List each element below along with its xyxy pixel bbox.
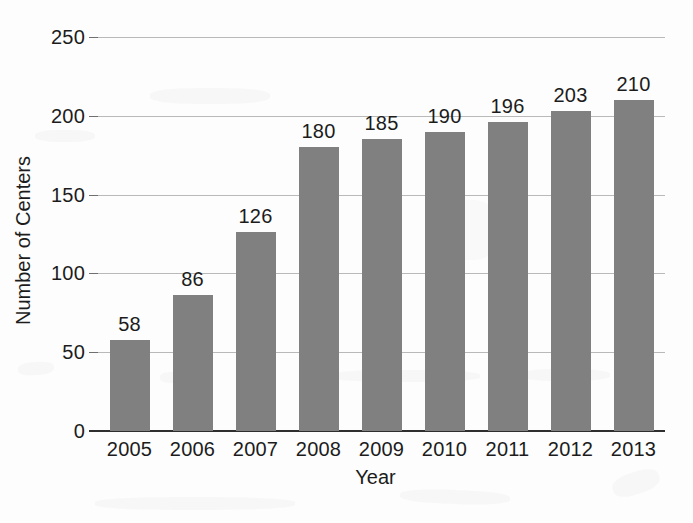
bar-value-label: 58 (118, 313, 141, 336)
bar-value-label: 210 (617, 73, 651, 96)
x-axis-tick-label: 2005 (107, 438, 152, 461)
y-axis-tick (89, 430, 98, 432)
bar[interactable] (110, 340, 150, 431)
x-axis-tick-label: 2006 (170, 438, 215, 461)
bar-value-label: 203 (554, 84, 588, 107)
bar-value-label: 180 (302, 120, 336, 143)
x-axis-tick-label: 2013 (611, 438, 656, 461)
bar-value-label: 126 (239, 205, 273, 228)
bar-series: 5820058620061262007180200818520091902010… (98, 37, 665, 431)
y-axis-tick-label: 0 (74, 420, 85, 443)
bar[interactable] (173, 295, 213, 431)
x-axis-tick-label: 2008 (296, 438, 341, 461)
bar[interactable] (425, 132, 465, 431)
y-axis-tick-label: 50 (62, 341, 85, 364)
y-axis-tick-label: 200 (51, 104, 85, 127)
bar-value-label: 86 (181, 268, 204, 291)
bar[interactable] (614, 100, 654, 431)
chart-screenshot: Number of Centers 050100150200250 582005… (0, 0, 693, 523)
x-axis-tick-label: 2012 (548, 438, 593, 461)
bar[interactable] (236, 232, 276, 431)
y-axis-title-text: Number of Centers (12, 156, 35, 325)
x-axis-tick-label: 2010 (422, 438, 467, 461)
y-axis-tick (89, 352, 98, 353)
y-axis-tick (89, 273, 98, 274)
y-axis-tick-label: 150 (51, 183, 85, 206)
bar-group: 862006 (161, 37, 224, 431)
x-axis-tick-label: 2009 (359, 438, 404, 461)
x-axis-tick-label: 2007 (233, 438, 278, 461)
bar-group: 1802008 (287, 37, 350, 431)
y-axis-tick-label: 250 (51, 26, 85, 49)
bar-group: 1962011 (476, 37, 539, 431)
bar-value-label: 185 (365, 112, 399, 135)
bar-value-label: 190 (428, 105, 462, 128)
bar-chart: Number of Centers 050100150200250 582005… (0, 0, 693, 523)
y-axis-title: Number of Centers (0, 0, 46, 480)
x-axis-title-text: Year (355, 466, 395, 488)
bar-group: 2032012 (539, 37, 602, 431)
plot-area: 050100150200250 582005862006126200718020… (98, 37, 665, 431)
bar-value-label: 196 (491, 95, 525, 118)
x-axis-tick-label: 2011 (486, 438, 530, 461)
bar[interactable] (488, 122, 528, 431)
y-axis-tick (89, 195, 98, 196)
x-axis-title: Year (0, 466, 693, 489)
bar[interactable] (299, 147, 339, 431)
bar[interactable] (362, 139, 402, 431)
bar-group: 582005 (98, 37, 161, 431)
bar-group: 1902010 (413, 37, 476, 431)
y-axis-tick (89, 37, 98, 38)
bar[interactable] (551, 111, 591, 431)
bar-group: 1852009 (350, 37, 413, 431)
y-axis-tick-label: 100 (51, 262, 85, 285)
bar-group: 1262007 (224, 37, 287, 431)
y-axis-tick (89, 116, 98, 117)
bar-group: 2102013 (602, 37, 665, 431)
